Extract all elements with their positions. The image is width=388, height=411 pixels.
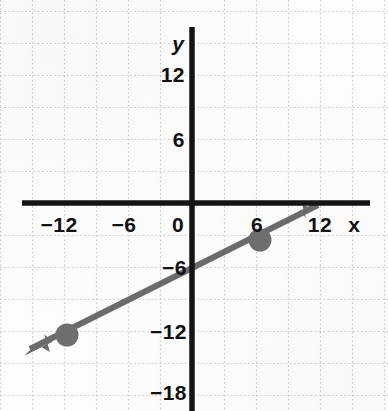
x-tick-label-12: 12 (308, 214, 332, 235)
x-tick-label-minus6: −6 (112, 214, 137, 235)
y-tick-label-minus6: −6 (162, 257, 187, 278)
x-tick-label-minus12: −12 (40, 214, 77, 235)
x-tick-label-zero: 0 (172, 214, 184, 235)
x-tick-label-6: 6 (251, 214, 263, 235)
y-tick-label-12: 12 (161, 64, 185, 85)
x-axis-label: x (348, 214, 360, 235)
y-tick-label-6: 6 (173, 129, 185, 150)
graph-figure: y x −12 −6 0 6 12 12 6 −6 −12 −18 (0, 0, 388, 411)
y-tick-label-minus12: −12 (150, 321, 187, 342)
y-tick-label-minus18: −18 (150, 382, 187, 403)
y-axis-label: y (172, 33, 184, 54)
axes-layer (0, 0, 388, 411)
